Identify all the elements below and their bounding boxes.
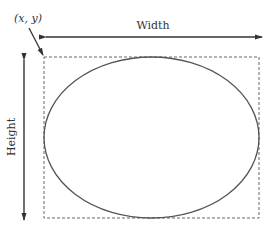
ellipse-shape bbox=[44, 57, 259, 218]
ellipse-bounds-diagram: Width Height (x, y) bbox=[0, 0, 270, 231]
width-label: Width bbox=[136, 19, 169, 32]
origin-label: (x, y) bbox=[14, 12, 42, 25]
bounding-rectangle bbox=[44, 57, 259, 218]
height-label: Height bbox=[5, 117, 18, 156]
origin-pointer-line bbox=[29, 28, 43, 55]
